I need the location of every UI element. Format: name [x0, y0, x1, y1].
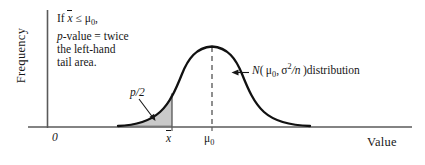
mu-zero-tick-label: μ0 [204, 132, 214, 147]
note-line-1-prefix: If [57, 12, 68, 24]
pvalue-normal-curve-figure: If x ≤ μ0, p-value = twice the left-hand… [0, 0, 425, 165]
distribution-label-tail: distribution [307, 64, 360, 76]
distribution-label-arrow-head [232, 70, 239, 76]
note-line-4: tail area. [57, 56, 129, 69]
x-bar-symbol: x [68, 12, 73, 25]
distribution-label-over-n: /n [292, 64, 301, 76]
pvalue-note-block: If x ≤ μ0, p-value = twice the left-hand… [57, 12, 129, 69]
mu-zero-tick-subscript: 0 [210, 138, 214, 147]
note-line-1: If x ≤ μ0, [57, 12, 129, 30]
distribution-label: N( μ0, σ2/n )distribution [252, 62, 360, 79]
x-bar-tick-symbol: x [166, 132, 171, 144]
note-line-2-rest: -value = twice [63, 30, 129, 42]
x-axis-label: Value [367, 135, 397, 150]
x-bar-tick-label: x [166, 132, 171, 144]
y-axis-label: Frequency [14, 21, 29, 91]
note-line-1-suffix: ≤ μ [73, 12, 91, 24]
origin-tick-label: 0 [52, 131, 58, 143]
note-line-1-end: , [95, 12, 98, 24]
p-half-arrow-line [139, 99, 153, 117]
normal-density-curve [118, 47, 310, 127]
note-line-3: the left-hand [57, 43, 129, 56]
distribution-label-n: N [252, 64, 260, 76]
p-half-label: p/2 [130, 86, 145, 98]
note-line-2: p-value = twice [57, 30, 129, 43]
